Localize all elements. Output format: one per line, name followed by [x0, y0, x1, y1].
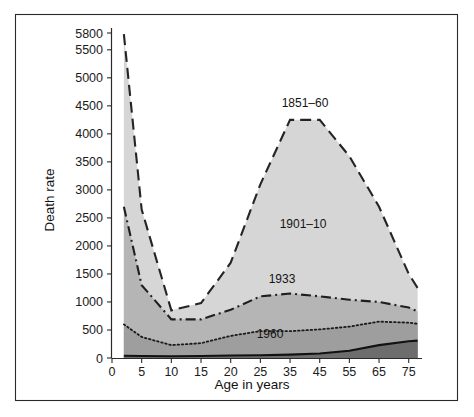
x-tick-label: 75	[402, 365, 416, 379]
x-tick-label: 15	[194, 365, 208, 379]
y-tick-label: 3500	[75, 155, 103, 169]
y-tick-label: 2500	[75, 211, 103, 225]
y-tick-label: 1000	[75, 295, 103, 309]
y-tick-label: 3000	[75, 183, 103, 197]
y-tick-label: 4500	[75, 99, 103, 113]
x-axis-title: Age in years	[214, 377, 289, 392]
y-axis-title: Death rate	[42, 168, 57, 231]
death-rate-by-age-chart: 0500100015002000250030003500400045005000…	[0, 0, 474, 417]
y-tick-label: 1500	[75, 267, 103, 281]
x-tick-label: 55	[342, 365, 356, 379]
y-tick-label: 5000	[75, 71, 103, 85]
y-tick-label: 4000	[75, 127, 103, 141]
y-tick-label: 5800	[75, 27, 103, 41]
x-tick-label: 5	[138, 365, 145, 379]
series-annotation-1851-60: 1851–60	[282, 96, 329, 110]
x-tick-label: 65	[372, 365, 386, 379]
series-annotation-1960: 1960	[257, 327, 284, 341]
series-annotation-1901-10: 1901–10	[280, 217, 327, 231]
y-tick-label: 5500	[75, 43, 103, 57]
series-annotation-1933: 1933	[269, 272, 296, 286]
x-tick-label: 45	[313, 365, 327, 379]
y-tick-label: 2000	[75, 239, 103, 253]
figure-root: 0500100015002000250030003500400045005000…	[0, 0, 474, 417]
x-tick-label: 0	[109, 365, 116, 379]
y-tick-label: 500	[82, 323, 103, 337]
x-tick-label: 10	[164, 365, 178, 379]
y-tick-label: 0	[96, 352, 103, 366]
